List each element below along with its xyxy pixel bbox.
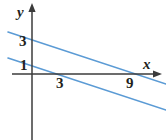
y-tick-label-3: 3 bbox=[19, 34, 27, 49]
y-axis-label: y bbox=[17, 5, 24, 20]
graph-figure: y x 3 1 3 9 bbox=[0, 0, 166, 140]
x-axis-label: x bbox=[143, 57, 151, 72]
x-tick-label-9: 9 bbox=[126, 76, 134, 91]
x-axis-arrowhead bbox=[153, 70, 162, 77]
x-tick-label-3: 3 bbox=[56, 76, 64, 91]
y-axis-arrowhead bbox=[28, 3, 35, 12]
y-tick-label-1: 1 bbox=[20, 58, 28, 73]
